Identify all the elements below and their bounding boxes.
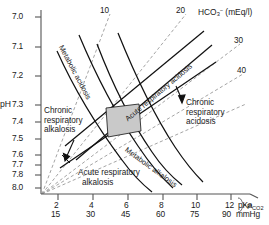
x-axis-ticks [58, 194, 231, 200]
y-tick-7-0: 7.0 [12, 12, 23, 21]
y-tick-7-8: 7.8 [12, 170, 23, 179]
label-acute-respiratory-alkalosis: Acute respiratory alkalosis [78, 168, 140, 187]
y-tick-7-4: 7.4 [12, 117, 23, 126]
label-chronic-respiratory-alkalosis: Chronic respiratory alkalosis [44, 106, 83, 135]
chronic-acidosis-line-3: acidosis [186, 117, 225, 127]
x-tick-mmhg-60: 60 [156, 210, 165, 219]
hco3-unit: (mEq/l) [225, 7, 252, 17]
hco3-isopleth-20 [42, 14, 186, 194]
label-chronic-respiratory-acidosis: Chronic respiratory acidosis [186, 98, 225, 127]
x-tick-mmhg-90: 90 [222, 210, 231, 219]
hco3-label-20: 20 [176, 7, 185, 16]
x-axis-title: PCO2 [247, 203, 264, 212]
x-tick-mmhg-30: 30 [86, 210, 95, 219]
hco3-axis-title: HCO3− (mEq/l) [198, 8, 252, 18]
hco3-sup: − [220, 7, 223, 13]
y-tick-7-6: 7.6 [12, 150, 23, 159]
hco3-label-40: 40 [237, 67, 246, 76]
x-axis-tail [250, 194, 258, 198]
y-axis-ticks [35, 17, 41, 188]
chronic-acidosis-line-1: Chronic [186, 98, 225, 108]
chronic-alkalosis-line-3: alkalosis [44, 125, 83, 135]
chronic-acidosis-line-2: respiratory [186, 108, 225, 118]
x-tick-mmhg-15: 15 [51, 210, 60, 219]
hco3-main: HCO [198, 7, 217, 17]
hco3-isopleth-10 [42, 14, 110, 194]
x-tick-mmhg-45: 45 [121, 210, 130, 219]
x-tick-mmhg-75: 75 [190, 210, 199, 219]
acute-alkalosis-line-2: alkalosis [82, 178, 140, 188]
hco3-label-30: 30 [234, 37, 243, 46]
chronic-alkalosis-line-1: Chronic [44, 106, 83, 116]
y-axis-title: pH [0, 100, 11, 109]
acid-base-nomogram: 7.0 7.1 7.2 7.3 7.4 7.5 7.6 7.7 7.8 8.0 … [0, 0, 269, 225]
y-tick-7-5: 7.5 [12, 134, 23, 143]
y-tick-7-2: 7.2 [12, 71, 23, 80]
x-axis-title-sub2: 2 [260, 205, 263, 211]
y-tick-7-1: 7.1 [12, 42, 23, 51]
acute-alkalosis-line-1: Acute respiratory [78, 168, 140, 178]
y-tick-8-0: 8.0 [12, 183, 23, 192]
chronic-alkalosis-line-2: respiratory [44, 116, 83, 126]
y-tick-7-7: 7.7 [12, 160, 23, 169]
chronic-acidosis-arrow-head [179, 95, 185, 103]
y-tick-7-3: 7.3 [12, 100, 23, 109]
hco3-label-10: 10 [100, 7, 109, 16]
